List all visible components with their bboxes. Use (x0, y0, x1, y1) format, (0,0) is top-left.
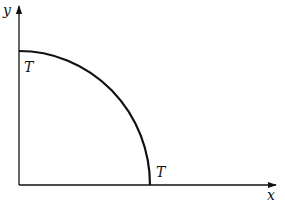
curve-end-label: T (156, 164, 167, 180)
x-axis-label: x (267, 187, 275, 203)
curve (19, 51, 150, 185)
curve-start-label: T (24, 59, 35, 75)
diagram-figure: y x T T (0, 0, 285, 215)
y-axis-label: y (2, 2, 12, 18)
